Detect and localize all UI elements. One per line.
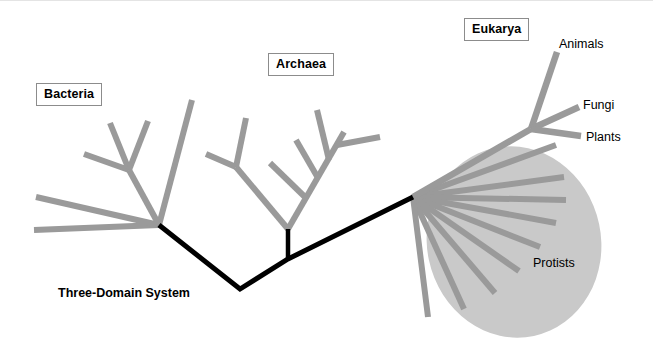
plants-branch	[531, 129, 581, 136]
domain-box-archaea-label: Archaea	[276, 57, 326, 71]
bacteria-branches	[34, 100, 192, 230]
archaea-left-tip-a	[206, 154, 236, 167]
archaea-side-branch-2	[296, 140, 318, 178]
domain-box-bacteria[interactable]: Bacteria	[36, 83, 102, 106]
archaea-side-branch-3	[317, 110, 329, 160]
domain-box-eukarya-label: Eukarya	[472, 22, 521, 36]
archaea-side-branch-1	[270, 163, 306, 198]
domain-box-bacteria-label: Bacteria	[44, 87, 94, 101]
bacteria-branch-long	[159, 100, 192, 225]
figure-caption: Three-Domain System	[58, 286, 190, 300]
taxon-label-animals: Animals	[559, 37, 603, 51]
taxon-label-fungi: Fungi	[583, 98, 614, 112]
taxon-label-protists: Protists	[533, 256, 575, 270]
domain-box-archaea[interactable]: Archaea	[268, 53, 334, 76]
archaea-branches	[206, 110, 380, 229]
phylogenetic-tree-figure: Bacteria Archaea Eukarya Animals Fungi P…	[0, 0, 653, 353]
bacteria-branch-mid	[36, 197, 159, 225]
bacteria-branch-low	[34, 225, 159, 230]
trunk-group	[159, 197, 413, 289]
bacteria-branch-upper-right	[129, 121, 148, 170]
domain-box-eukarya[interactable]: Eukarya	[464, 18, 529, 41]
archaea-left-tip-b	[236, 118, 246, 167]
taxon-label-plants: Plants	[586, 130, 621, 144]
